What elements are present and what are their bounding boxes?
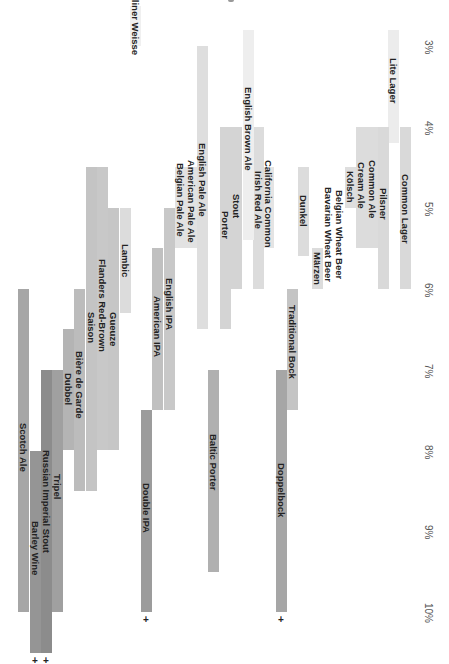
- clipped-title-fragment: [228, 0, 234, 2]
- bar-label: Gueuze: [108, 312, 119, 346]
- bar-label: Scotch Ale: [18, 423, 29, 472]
- bar-label: Bière de Garde: [74, 351, 85, 419]
- bar-label: California Common: [263, 160, 274, 248]
- axis-tick-label: 9%: [422, 525, 434, 539]
- bar-label: Saison: [86, 312, 97, 343]
- bar-label: English Brown Ale: [243, 87, 254, 171]
- bar-label: Lite Lager: [388, 58, 399, 103]
- extends-beyond-marker: +: [143, 615, 149, 625]
- bar-label: English IPA: [164, 278, 175, 330]
- bar-label: Lambic: [120, 244, 131, 277]
- bar-label: Common Ale: [367, 160, 378, 218]
- bar-label: Traditional Bock: [287, 305, 298, 379]
- abv-range-chart: 3%4%5%6%7%8%9%10% Lite LagerCommon Lager…: [0, 0, 449, 664]
- bar-label: Dubbel: [63, 373, 74, 405]
- bar-label: Russian Imperial Stout: [41, 450, 52, 553]
- axis-tick-label: 3%: [422, 40, 434, 54]
- axis-tick-label: 6%: [422, 283, 434, 297]
- bar-label: Common Lager: [400, 174, 411, 244]
- bar-label: English Pale Ale: [197, 143, 208, 217]
- bar-label: Berliner Weisse: [130, 0, 141, 55]
- bar-label: Kölsch: [345, 171, 356, 203]
- bar-label: Bavarian Wheat Beer: [323, 187, 334, 282]
- bar-label: American IPA: [152, 296, 163, 357]
- bar-label: Tripel: [52, 474, 63, 499]
- bar-label: Double IPA: [141, 483, 152, 533]
- axis-tick-label: 8%: [422, 445, 434, 459]
- bar-label: Irish Red Ale: [253, 171, 264, 229]
- bar-label: American Pale Ale: [186, 160, 197, 243]
- axis-tick-label: 4%: [422, 121, 434, 135]
- bar-label: Doppelbock: [276, 463, 287, 517]
- axis-tick-label: 5%: [422, 202, 434, 216]
- bar-label: Cream Ale: [356, 162, 367, 209]
- bar-label: Barley Wine: [30, 521, 41, 575]
- bar-label: Stout: [231, 194, 242, 218]
- bar-label: Pilsner: [378, 188, 389, 220]
- extends-beyond-marker: +: [43, 656, 49, 664]
- bar-label: Märzen: [312, 252, 323, 285]
- bar-label: Belgian Pale Ale: [175, 163, 186, 237]
- axis-tick-label: 10%: [422, 603, 434, 623]
- extends-beyond-marker: +: [32, 656, 38, 664]
- bar-label: Dunkel: [298, 195, 309, 227]
- extends-beyond-marker: +: [278, 615, 284, 625]
- axis-tick-label: 7%: [422, 364, 434, 378]
- bar-label: Porter: [220, 211, 231, 239]
- bar-label: Flanders Red-Brown: [97, 259, 108, 352]
- bar-label: Baltic Porter: [208, 434, 219, 491]
- bar-label: Belgian Wheat Beer: [334, 190, 345, 279]
